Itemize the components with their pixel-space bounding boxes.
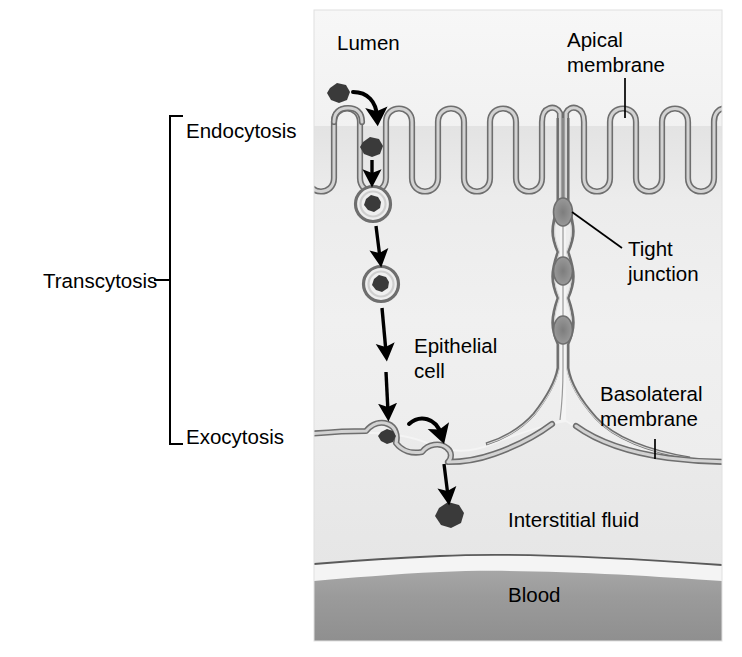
- arrow-vesicle-transport-3: [386, 372, 388, 412]
- vesicle-lower: [364, 267, 399, 302]
- transcytosis-diagram: Lumen Apical membrane Tight junction Epi…: [0, 0, 742, 657]
- label-epithelial-cell-line2: cell: [414, 359, 445, 382]
- label-apical-membrane-line1: Apical: [567, 28, 623, 51]
- label-tight-junction-line1: Tight: [628, 237, 673, 260]
- label-lumen: Lumen: [337, 31, 400, 54]
- label-exocytosis: Exocytosis: [186, 425, 284, 448]
- figure-root: Lumen Apical membrane Tight junction Epi…: [0, 0, 742, 657]
- tight-junction-node-3: [554, 316, 573, 344]
- label-tight-junction-line2: junction: [627, 262, 699, 285]
- label-transcytosis: Transcytosis: [43, 269, 157, 292]
- transcytosis-bracket: [170, 116, 182, 444]
- label-endocytosis: Endocytosis: [186, 119, 297, 142]
- label-basolateral-membrane-line1: Basolateral: [600, 382, 703, 405]
- panel: [308, 10, 734, 641]
- vesicle-upper: [356, 187, 391, 222]
- tight-junction-node-1: [554, 198, 573, 226]
- tight-junction-node-2: [554, 257, 573, 285]
- label-apical-membrane-line2: membrane: [567, 53, 665, 76]
- label-blood: Blood: [508, 583, 560, 606]
- label-basolateral-membrane-line2: membrane: [600, 407, 698, 430]
- label-interstitial-fluid: Interstitial fluid: [508, 508, 639, 531]
- label-epithelial-cell-line1: Epithelial: [414, 334, 497, 357]
